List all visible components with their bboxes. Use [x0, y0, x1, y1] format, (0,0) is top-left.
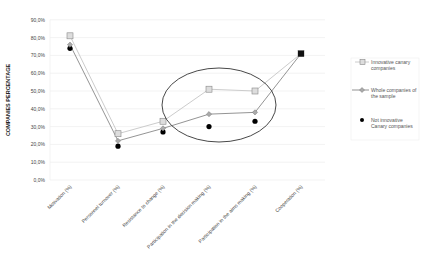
y-tick-label: 50,0% [31, 88, 46, 94]
x-tick-label: Resistance to change (%) [121, 183, 166, 228]
circle-marker-icon [115, 144, 120, 149]
square-marker-icon [252, 88, 258, 94]
square-marker-icon [160, 118, 166, 124]
diamond-marker-icon [206, 112, 211, 117]
circle-marker-icon [360, 118, 364, 122]
x-tick-label: Cooperation (%) [274, 183, 304, 213]
circle-marker-icon [206, 124, 211, 129]
highlight-ellipse [162, 68, 276, 142]
square-marker-icon [206, 86, 212, 92]
y-tick-label: 70,0% [31, 52, 46, 58]
line-chart: 0,0%10,0%20,0%30,0%40,0%50,0%60,0%70,0%8… [0, 0, 441, 270]
square-marker-icon [360, 60, 365, 65]
legend-label: the sample [371, 93, 396, 99]
y-tick-label: 90,0% [31, 17, 46, 23]
diamond-marker-icon [360, 88, 365, 93]
square-marker-icon [115, 131, 121, 137]
legend-item-innovative: Innovative canary companies [355, 59, 411, 71]
gridlines [50, 20, 325, 180]
legend: Innovative canary companies Whole compan… [351, 58, 419, 140]
legend-label: companies [371, 65, 396, 71]
y-tick-label: 40,0% [31, 106, 46, 112]
x-tick-label: Motivation (%) [46, 183, 73, 210]
y-axis-label: COMPANIES PERCENTAGE [5, 64, 11, 137]
overlap-marker-icon [298, 51, 304, 57]
y-tick-label: 80,0% [31, 35, 46, 41]
legend-label: Canary companies [371, 123, 413, 129]
legend-item-whole: Whole companies of the sample [352, 87, 417, 99]
x-axis-labels: Motivation (%)Personnel turnover (%)Resi… [46, 183, 304, 249]
y-axis-ticks: 0,0%10,0%20,0%30,0%40,0%50,0%60,0%70,0%8… [31, 17, 46, 183]
legend-item-not-innovative: Not innovative Canary companies [360, 117, 413, 129]
y-tick-label: 30,0% [31, 124, 46, 130]
square-marker-icon [67, 33, 73, 39]
y-tick-label: 20,0% [31, 141, 46, 147]
circle-marker-icon [252, 119, 257, 124]
y-tick-label: 0,0% [34, 177, 46, 183]
y-tick-label: 10,0% [31, 159, 46, 165]
x-tick-label: Personnel turnover (%) [80, 183, 121, 224]
diamond-marker-icon [115, 138, 120, 143]
y-tick-label: 60,0% [31, 70, 46, 76]
